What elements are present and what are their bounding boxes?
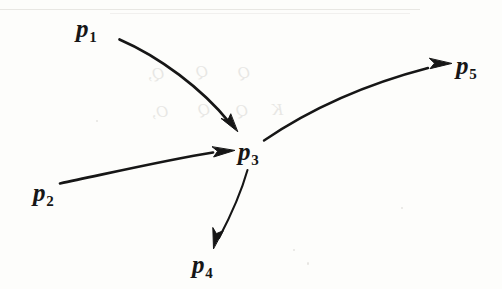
figure-canvas: Q, Q Q O, Q Q K: [0, 0, 502, 289]
edge-p3-to-p5: [264, 59, 452, 141]
node-label-p1: p1: [76, 16, 97, 45]
node-subscript-p3: 3: [251, 152, 259, 168]
edge-p1-to-p3: [120, 40, 238, 132]
node-subscript-p2: 2: [46, 193, 54, 209]
node-label-p4: p4: [192, 252, 213, 281]
node-base-p3: p: [238, 138, 251, 165]
node-label-p3: p3: [238, 139, 259, 168]
node-subscript-p4: 4: [205, 265, 213, 281]
node-subscript-p5: 5: [469, 66, 477, 82]
node-base-p5: p: [456, 52, 469, 79]
node-label-p5: p5: [456, 53, 477, 82]
node-subscript-p1: 1: [89, 29, 97, 45]
edge-p2-to-p3: [60, 147, 235, 184]
node-base-p4: p: [192, 251, 205, 278]
node-base-p2: p: [33, 179, 46, 206]
node-label-p2: p2: [33, 180, 54, 209]
edge-p3-to-p4: [213, 170, 248, 249]
node-base-p1: p: [76, 15, 89, 42]
